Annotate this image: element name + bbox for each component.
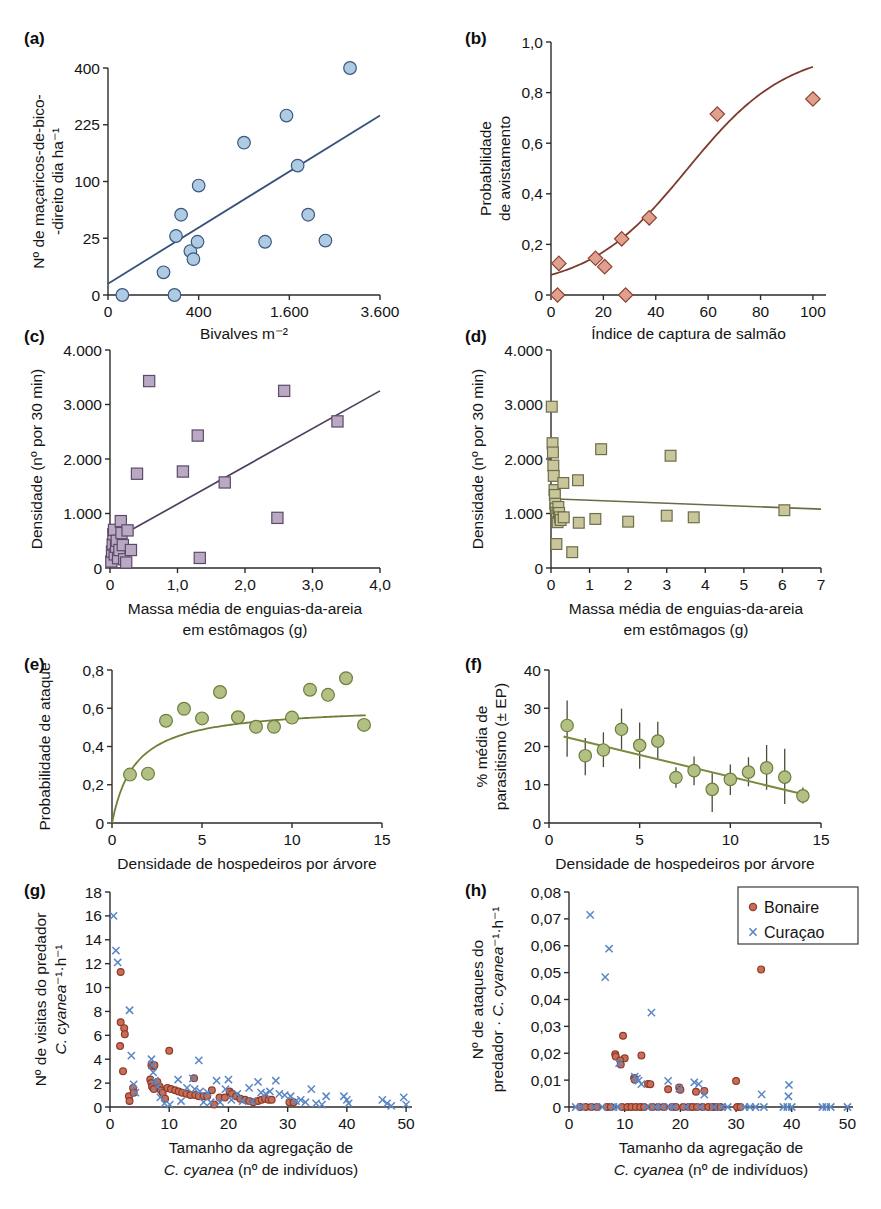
data-point: [573, 517, 584, 528]
data-point: [116, 289, 129, 302]
y-tick-label: 100: [74, 173, 100, 190]
data-point: [302, 208, 315, 221]
svg-text:Densidade (nº por 30 min): Densidade (nº por 30 min): [469, 369, 486, 550]
panel-letter-f: (f): [465, 655, 482, 674]
y-tick-label: 12: [85, 955, 102, 972]
x-tick-label: 0: [108, 831, 117, 848]
y-axis-label: Densidade (nº por 30 min): [28, 369, 45, 550]
y-axis-label: Probabilidade de ataque: [36, 662, 53, 830]
svg-text:% média de: % média de: [473, 706, 490, 788]
svg-text:-direito dia ha⁻¹: -direito dia ha⁻¹: [49, 128, 66, 235]
x-tick-label: 20: [220, 1115, 238, 1132]
x-tick-label: 2: [624, 576, 633, 593]
svg-text:Tamanho da agregação de: Tamanho da agregação de: [619, 1139, 803, 1156]
y-tick-label: 0,03: [531, 1018, 561, 1035]
x-tick-label: 40: [783, 1115, 801, 1132]
data-point: [558, 512, 569, 523]
data-point: [125, 544, 136, 555]
y-tick-label: 20: [524, 738, 542, 755]
panel-c: (c)01.0002.0003.0004.00001,02,03,04,0Den…: [0, 318, 440, 638]
svg-text:Massa média de enguias-da-arei: Massa média de enguias-da-areia: [569, 600, 804, 617]
x-tick-label: 10: [616, 1115, 634, 1132]
x-axis-label: Tamanho da agregação deC. cyanea (nº de …: [164, 1139, 358, 1178]
y-tick-label: 2.000: [63, 451, 102, 468]
data-point: [174, 1076, 181, 1083]
svg-text:predador · C. cyanea⁻¹·h⁻¹: predador · C. cyanea⁻¹·h⁻¹: [489, 907, 506, 1093]
data-point: [358, 718, 371, 731]
panel-letter-d: (d): [465, 327, 487, 346]
panel-letter-g: (g): [24, 881, 46, 900]
y-tick-label: 0,07: [531, 910, 561, 927]
data-point: [665, 1077, 672, 1084]
data-point: [110, 912, 117, 919]
data-point: [192, 179, 205, 192]
x-tick-label: 50: [839, 1115, 857, 1132]
data-point: [225, 1076, 232, 1083]
y-tick-label: 0: [93, 1099, 102, 1116]
svg-text:C. cyanea⁻¹·h⁻¹: C. cyanea⁻¹·h⁻¹: [52, 945, 69, 1055]
data-point: [661, 510, 672, 521]
data-point: [112, 947, 119, 954]
data-point: [121, 557, 132, 568]
x-tick-label: 10: [283, 831, 301, 848]
data-point: [665, 450, 676, 461]
y-tick-label: 2: [93, 1075, 102, 1092]
svg-text:Massa média de enguias-da-arei: Massa média de enguias-da-areia: [128, 600, 363, 617]
data-point: [322, 688, 335, 701]
svg-text:C. cyanea (nº de indivíduos): C. cyanea (nº de indivíduos): [164, 1161, 358, 1178]
y-tick-label: 0,4: [521, 185, 543, 202]
x-tick-label: 6: [778, 576, 787, 593]
y-tick-label: 4: [93, 1051, 102, 1068]
y-tick-label: 0: [95, 815, 104, 832]
panel-b: (b)00,20,40,60,81,0020406080100Probabili…: [441, 10, 881, 320]
x-axis-label: Tamanho da agregação deC. cyanea (nº de …: [614, 1139, 808, 1178]
legend-marker-circle: [749, 903, 756, 910]
x-tick-label: 40: [338, 1115, 356, 1132]
svg-text:Nº de visitas do predador: Nº de visitas do predador: [32, 913, 49, 1087]
data-point: [652, 735, 664, 747]
data-point: [191, 235, 204, 248]
y-tick-label: 0: [552, 1099, 561, 1116]
data-point: [670, 771, 682, 783]
data-point: [587, 911, 594, 918]
y-tick-label: 3.000: [504, 396, 543, 413]
data-point: [665, 1086, 672, 1093]
data-point: [779, 771, 791, 783]
data-point: [573, 475, 584, 486]
data-point: [620, 1032, 627, 1039]
y-tick-label: 0,05: [531, 964, 561, 981]
data-point: [710, 107, 724, 121]
data-point: [117, 1043, 124, 1050]
svg-text:Probabilidade: Probabilidade: [477, 121, 494, 216]
figure-root: (a)02510022540004001.6003.600Nº de maçar…: [0, 0, 881, 1209]
data-point: [319, 234, 332, 247]
data-point: [191, 1075, 198, 1082]
x-tick-label: 50: [397, 1115, 415, 1132]
data-point: [166, 1047, 173, 1054]
svg-text:Nº de ataques do: Nº de ataques do: [469, 940, 486, 1059]
data-point: [178, 702, 191, 715]
y-tick-label: 10: [85, 979, 103, 996]
data-point: [187, 253, 200, 266]
data-point: [308, 1085, 315, 1092]
y-tick-label: 0,02: [531, 1045, 561, 1062]
x-tick-label: 5: [635, 831, 644, 848]
svg-text:Densidade (nº por 30 min): Densidade (nº por 30 min): [28, 369, 45, 550]
y-tick-label: 0: [534, 287, 543, 304]
data-point: [597, 744, 609, 756]
y-tick-label: 0,2: [82, 776, 104, 793]
data-point: [168, 289, 181, 302]
y-tick-label: 4.000: [63, 342, 102, 359]
svg-text:Probabilidade de ataque: Probabilidade de ataque: [36, 662, 53, 830]
y-axis-label: Densidade (nº por 30 min): [469, 369, 486, 550]
data-point: [254, 1078, 261, 1085]
data-point: [268, 720, 281, 733]
y-tick-label: 1.000: [504, 505, 543, 522]
panel-h: (h)00,010,020,030,040,050,060,070,080102…: [441, 860, 881, 1209]
data-point: [126, 1007, 133, 1014]
x-tick-label: 0: [547, 576, 556, 593]
y-tick-label: 3.000: [63, 396, 102, 413]
y-tick-label: 1.000: [63, 505, 102, 522]
y-axis-label: Nº de maçaricos-de-bico--direito dia ha⁻…: [30, 94, 66, 269]
data-point: [175, 208, 188, 221]
